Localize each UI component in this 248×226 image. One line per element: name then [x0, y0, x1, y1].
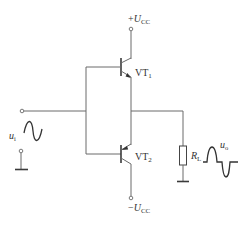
negative-supply-label: −UCC [128, 202, 151, 215]
vt2-label: VT2 [135, 151, 152, 164]
vt1-label: VT1 [135, 67, 152, 80]
output-node [131, 110, 183, 145]
circuit-diagram: +UCC VT1 ui VT2 [0, 0, 248, 226]
input-voltage-label: ui [9, 130, 16, 142]
positive-supply-label: +UCC [128, 13, 151, 26]
load-label: RL [190, 150, 201, 163]
positive-supply: +UCC [128, 13, 151, 59]
vt1-collector-lead [121, 58, 131, 63]
positive-supply-terminal [129, 27, 133, 31]
vt2-emitter-arrow-icon [122, 146, 129, 150]
input-terminal [20, 109, 24, 113]
output-voltage-label: uo [220, 139, 228, 151]
transistor-vt1: VT1 [121, 58, 152, 110]
vt2-collector-lead [121, 158, 131, 164]
input-ground-terminal [19, 149, 23, 153]
negative-supply: −UCC [128, 196, 151, 215]
negative-supply-terminal [129, 196, 133, 200]
load-resistor: RL [177, 111, 201, 182]
output-waveform: uo [203, 139, 238, 177]
resistor-icon [180, 146, 187, 165]
output-crossover-wave-icon [203, 147, 238, 177]
transistor-vt2: VT2 [121, 144, 152, 196]
input-sine-wave-icon [24, 121, 42, 140]
base-network [86, 67, 121, 154]
input-section: ui [9, 109, 86, 169]
